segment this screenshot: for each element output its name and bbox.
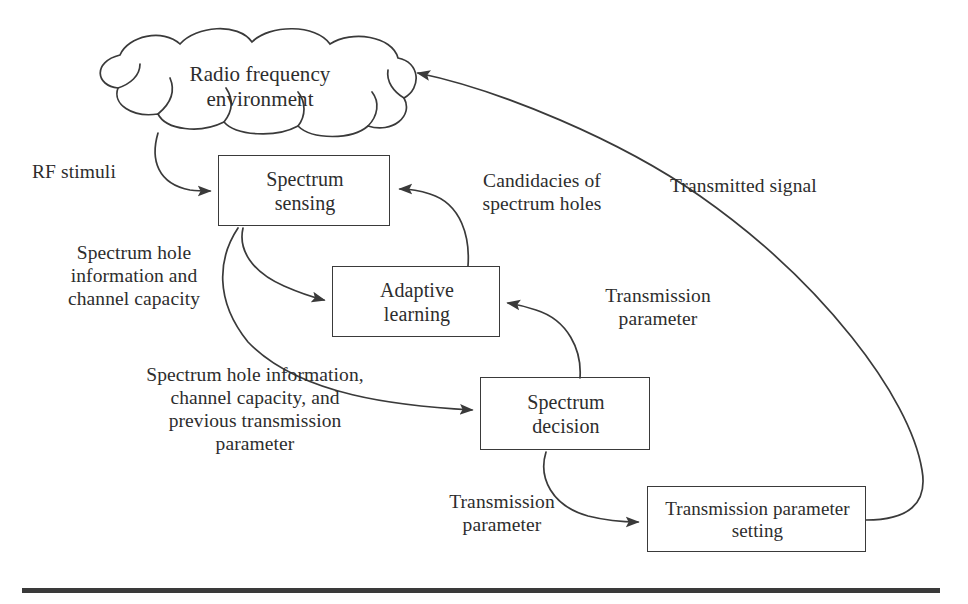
edge-label-spectrum-hole-information-channel-capacity-previous: Spectrum hole information, channel capac… bbox=[124, 363, 386, 455]
edge-label-transmitted-signal: Transmitted signal bbox=[670, 174, 860, 197]
edge-label-rf-stimuli: RF stimuli bbox=[32, 160, 152, 183]
edge-label-spectrum-hole-information-and-channel-capacity: Spectrum hole information and channel ca… bbox=[50, 241, 218, 310]
node-spectrum-decision[interactable]: Spectrum decision bbox=[480, 377, 650, 450]
node-transmission-parameter-setting[interactable]: Transmission parameter setting bbox=[647, 486, 866, 552]
bottom-rule bbox=[22, 588, 940, 593]
node-spectrum-sensing-label: Spectrum sensing bbox=[219, 156, 391, 227]
diagram-canvas: Radio frequency environment Spectrum sen… bbox=[0, 0, 968, 604]
edge-label-candidacies-of-spectrum-holes: Candidacies of spectrum holes bbox=[472, 169, 612, 215]
node-spectrum-decision-label: Spectrum decision bbox=[481, 378, 651, 451]
edge-adaptive-learning-to-spectrum-sensing bbox=[400, 189, 468, 266]
cloud-label-radio-frequency-environment: Radio frequency environment bbox=[150, 62, 370, 112]
edge-label-transmission-parameter-to-setting: Transmission parameter bbox=[432, 490, 572, 536]
edge-label-transmission-parameter-to-adaptive-learning: Transmission parameter bbox=[588, 284, 728, 330]
edge-spectrum-sensing-to-adaptive-learning bbox=[242, 228, 324, 300]
node-adaptive-learning-label: Adaptive learning bbox=[333, 267, 501, 338]
edge-cloud-to-spectrum-sensing bbox=[155, 133, 210, 191]
node-transmission-parameter-setting-label: Transmission parameter setting bbox=[648, 487, 867, 553]
node-adaptive-learning[interactable]: Adaptive learning bbox=[332, 266, 500, 337]
node-spectrum-sensing[interactable]: Spectrum sensing bbox=[218, 155, 390, 226]
edge-spectrum-decision-to-adaptive-learning bbox=[508, 303, 580, 378]
